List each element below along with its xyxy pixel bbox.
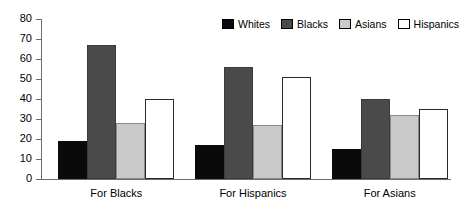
y-tick-label-50: 50	[20, 72, 32, 85]
y-tick-label-0: 0	[26, 172, 32, 185]
group-label-2: For Asians	[364, 187, 416, 200]
bar-whites-group-0	[58, 141, 87, 179]
bar-asians-group-0	[116, 123, 145, 179]
y-tick-label-70: 70	[20, 32, 32, 45]
y-tick-30: 30	[36, 119, 41, 120]
bar-asians-group-2	[390, 115, 419, 179]
group-label-0: For Blacks	[90, 187, 142, 200]
y-tick-40: 40	[36, 99, 41, 100]
y-tick-60: 60	[36, 59, 41, 60]
bar-blacks-group-1	[224, 67, 253, 179]
bar-blacks-group-0	[87, 45, 116, 179]
y-tick-50: 50	[36, 79, 41, 80]
bar-hispanics-group-0	[145, 99, 174, 179]
y-tick-70: 70	[36, 39, 41, 40]
y-tick-0: 0	[36, 179, 41, 180]
y-tick-80: 80	[36, 19, 41, 20]
bar-blacks-group-2	[361, 99, 390, 179]
bar-hispanics-group-1	[282, 77, 311, 179]
y-tick-10: 10	[36, 159, 41, 160]
y-tick-20: 20	[36, 139, 41, 140]
y-tick-label-20: 20	[20, 132, 32, 145]
bar-whites-group-2	[332, 149, 361, 179]
bar-whites-group-1	[195, 145, 224, 179]
bar-asians-group-1	[253, 125, 282, 179]
group-label-1: For Hispanics	[219, 187, 286, 200]
y-tick-label-10: 10	[20, 152, 32, 165]
y-tick-label-80: 80	[20, 12, 32, 25]
plot-area: 01020304050607080	[41, 19, 451, 180]
y-tick-label-40: 40	[20, 92, 32, 105]
x-axis-line	[41, 179, 451, 180]
y-axis-line	[41, 19, 42, 180]
y-tick-label-30: 30	[20, 112, 32, 125]
bar-hispanics-group-2	[419, 109, 448, 179]
y-tick-label-60: 60	[20, 52, 32, 65]
